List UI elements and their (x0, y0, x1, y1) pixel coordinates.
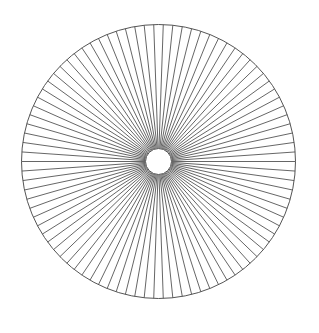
spoke-line (171, 164, 292, 190)
spoke-line (171, 162, 295, 171)
spoke-line (167, 171, 250, 263)
spoke-line (67, 171, 150, 263)
spoke-line (171, 133, 292, 159)
spoke-line (60, 171, 149, 257)
spoke-line (171, 152, 295, 161)
spoke-line (30, 115, 147, 157)
spoke-line (33, 106, 146, 156)
inner-circle (146, 149, 172, 175)
spoke-line (98, 38, 152, 149)
spoke-line (67, 60, 150, 152)
spoke-line (164, 38, 218, 149)
spoke-line (24, 164, 145, 190)
spoke-line (22, 162, 146, 171)
spoke-line (27, 124, 146, 158)
spoke-line (171, 115, 288, 157)
spoke-line (60, 66, 149, 152)
spoke-line (30, 166, 147, 208)
spoke-line (168, 171, 257, 257)
spoke-line (171, 165, 290, 199)
spoke-line (24, 133, 145, 159)
spoke-line (154, 174, 158, 298)
spoke-line (164, 173, 218, 284)
spoke-line (168, 66, 257, 152)
spoke-line (171, 124, 290, 158)
spoke-line (159, 25, 163, 149)
spoke-line (171, 166, 288, 208)
spoke-line (22, 152, 146, 161)
spoke-line (154, 25, 158, 149)
spoke-line (33, 167, 146, 217)
spoke-line (98, 173, 152, 284)
spoke-line (159, 174, 163, 298)
spoke-diagram (0, 0, 319, 333)
spoke-line (170, 167, 283, 217)
spoke-line (170, 106, 283, 156)
spoke-line (167, 60, 250, 152)
spoke-line (27, 165, 146, 199)
